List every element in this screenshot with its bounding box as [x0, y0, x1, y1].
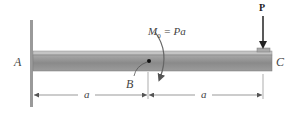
label-moment: M0 = Pa [148, 26, 186, 40]
label-c-end: C [276, 56, 284, 68]
load-pad [257, 48, 270, 52]
label-a-support: A [14, 56, 21, 68]
moment-subscript: 0 [157, 32, 161, 40]
moment-symbol: M [148, 25, 157, 37]
beam-diagram: A B C P M0 = Pa a a [0, 0, 291, 118]
diagram-graphics [0, 0, 291, 118]
fixed-support [30, 20, 33, 107]
label-span-left: a [84, 89, 90, 100]
label-load-p: P [259, 3, 265, 13]
label-b-point: B [126, 78, 133, 90]
beam [33, 51, 272, 71]
point-b-dot [147, 59, 151, 63]
moment-equation: = Pa [163, 25, 185, 37]
label-span-right: a [201, 89, 207, 100]
